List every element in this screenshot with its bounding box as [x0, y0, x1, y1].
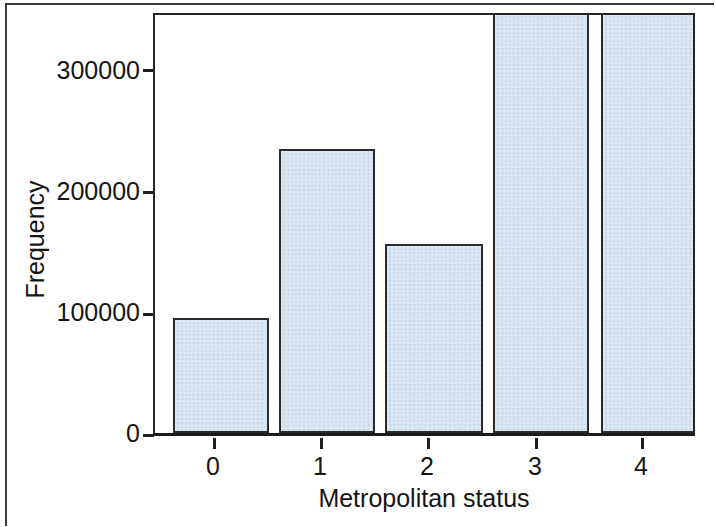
x-tick-label-0: 0 [173, 452, 253, 481]
chart-screenshot: Frequency 300000 200000 100000 0 0 1 2 3… [0, 0, 716, 527]
plot-area [153, 13, 695, 436]
bar-category-3 [493, 13, 589, 433]
x-tick-label-3: 3 [495, 452, 575, 481]
y-tick-label-0: 0 [20, 419, 140, 448]
y-tick-label-200000: 200000 [20, 177, 140, 206]
x-tick-label-1: 1 [280, 452, 360, 481]
x-tick-label-2: 2 [387, 452, 467, 481]
x-tick-mark-1 [320, 438, 323, 449]
x-tick-label-4: 4 [601, 452, 681, 481]
x-tick-mark-0 [213, 438, 216, 449]
y-tick-label-300000: 300000 [20, 56, 140, 85]
bar-category-0 [173, 318, 269, 433]
y-tick-label-100000: 100000 [20, 298, 140, 327]
bar-category-4 [601, 13, 695, 433]
bar-category-1 [279, 149, 375, 433]
x-tick-mark-2 [427, 438, 430, 449]
bar-category-2 [385, 244, 483, 433]
x-axis-title: Metropolitan status [153, 484, 695, 513]
x-tick-mark-3 [535, 438, 538, 449]
x-tick-mark-4 [641, 438, 644, 449]
